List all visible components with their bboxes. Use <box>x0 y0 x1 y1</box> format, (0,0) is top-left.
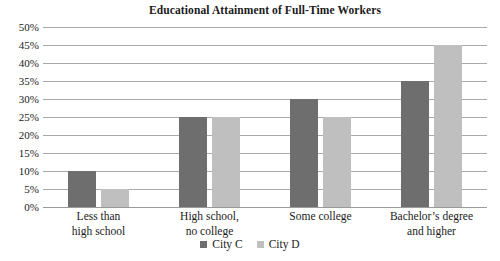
bar-city-c[interactable] <box>68 171 96 207</box>
bar-city-d[interactable] <box>101 189 129 207</box>
legend-item[interactable]: City C <box>200 238 242 251</box>
y-axis: 50%45%40%35%30%25%20%15%10%5%0% <box>0 27 39 207</box>
x-axis-category-label: Some college <box>265 209 376 224</box>
legend-label: City C <box>212 238 242 251</box>
plot-area <box>43 27 487 207</box>
bar-city-d[interactable] <box>434 45 462 207</box>
bar-chart: Educational Attainment of Full-Time Work… <box>0 0 500 261</box>
x-axis-category-label: High school, no college <box>154 209 265 239</box>
legend-label: City D <box>269 238 300 251</box>
bar-city-d[interactable] <box>323 117 351 207</box>
y-axis-tick-label: 45% <box>5 40 39 51</box>
y-axis-tick-label: 20% <box>5 130 39 141</box>
y-axis-tick-label: 10% <box>5 166 39 177</box>
bar-group <box>179 27 240 207</box>
y-axis-tick-label: 35% <box>5 76 39 87</box>
bar-city-d[interactable] <box>212 117 240 207</box>
bar-group <box>68 27 129 207</box>
y-axis-tick-label: 40% <box>5 58 39 69</box>
y-axis-tick-label: 25% <box>5 112 39 123</box>
y-axis-tick-label: 0% <box>5 202 39 213</box>
legend-swatch-icon <box>200 241 207 248</box>
bar-city-c[interactable] <box>401 81 429 207</box>
bar-group <box>401 27 462 207</box>
bar-group <box>290 27 351 207</box>
x-axis-category-label: Bachelor’s degree and higher <box>376 209 487 239</box>
bars-layer <box>43 27 487 207</box>
y-axis-tick-label: 50% <box>5 22 39 33</box>
legend-item[interactable]: City D <box>257 238 300 251</box>
y-axis-tick-label: 15% <box>5 148 39 159</box>
chart-title: Educational Attainment of Full-Time Work… <box>43 3 487 17</box>
x-axis-category-label: Less than high school <box>43 209 154 239</box>
chart-legend: City CCity D <box>0 238 500 251</box>
y-axis-tick-label: 30% <box>5 94 39 105</box>
bar-city-c[interactable] <box>179 117 207 207</box>
x-axis-labels: Less than high schoolHigh school, no col… <box>43 209 487 241</box>
legend-swatch-icon <box>257 241 264 248</box>
y-axis-tick-label: 5% <box>5 184 39 195</box>
gridline <box>43 207 487 208</box>
bar-city-c[interactable] <box>290 99 318 207</box>
